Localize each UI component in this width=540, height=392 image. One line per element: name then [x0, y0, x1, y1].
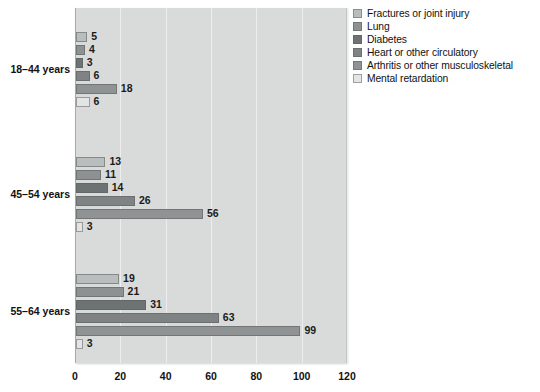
bar-row: 13: [76, 156, 346, 169]
bar[interactable]: [76, 97, 90, 107]
chart-legend: Fractures or joint injuryLungDiabetesHea…: [353, 7, 538, 85]
bar-value-label: 6: [94, 95, 100, 108]
bar[interactable]: [76, 313, 219, 323]
bar-row: 14: [76, 182, 346, 195]
bar-row: 6: [76, 96, 346, 109]
legend-label: Fractures or joint injury: [367, 8, 469, 19]
legend-swatch-icon: [353, 61, 362, 70]
x-tick-label-80: 80: [250, 370, 262, 382]
bar[interactable]: [76, 58, 83, 68]
gridline-120: [347, 8, 348, 363]
bar[interactable]: [76, 339, 83, 349]
bar-row: 21: [76, 286, 346, 299]
legend-item-2[interactable]: Lung: [353, 20, 538, 32]
bar-row: 3: [76, 338, 346, 351]
bar-value-label: 14: [112, 181, 124, 194]
bar-value-label: 99: [304, 324, 316, 337]
bar-group-1: 5436186: [76, 31, 346, 109]
bar-value-label: 21: [128, 285, 140, 298]
bar[interactable]: [76, 326, 300, 336]
bar[interactable]: [76, 196, 135, 206]
bar-group-3: 19213163993: [76, 273, 346, 351]
bar-value-label: 4: [89, 43, 95, 56]
legend-item-5[interactable]: Arthritis or other musculoskeletal: [353, 59, 538, 71]
bar-value-label: 3: [87, 56, 93, 69]
legend-label: Diabetes: [367, 34, 407, 45]
legend-label: Heart or other circulatory: [367, 47, 478, 58]
bar-value-label: 18: [121, 82, 133, 95]
bar-value-label: 6: [94, 69, 100, 82]
bar[interactable]: [76, 84, 117, 94]
x-tick-label-20: 20: [114, 370, 126, 382]
y-category-label-2: 45–54 years: [0, 188, 70, 200]
legend-item-3[interactable]: Diabetes: [353, 33, 538, 45]
bar-value-label: 3: [87, 337, 93, 350]
bar[interactable]: [76, 287, 124, 297]
legend-item-6[interactable]: Mental retardation: [353, 72, 538, 84]
x-tick-label-60: 60: [205, 370, 217, 382]
bar-value-label: 63: [223, 311, 235, 324]
bar-row: 99: [76, 325, 346, 338]
x-tick-label-40: 40: [160, 370, 172, 382]
legend-label: Lung: [367, 21, 390, 32]
bar-group-2: 13111426563: [76, 156, 346, 234]
bar-row: 19: [76, 273, 346, 286]
bar-row: 5: [76, 31, 346, 44]
legend-swatch-icon: [353, 22, 362, 31]
plot-area: 54361861311142656319213163993: [75, 8, 347, 363]
legend-swatch-icon: [353, 74, 362, 83]
bar[interactable]: [76, 32, 87, 42]
bar[interactable]: [76, 170, 101, 180]
legend-label: Arthritis or other musculoskeletal: [367, 60, 513, 71]
x-tick-label-100: 100: [293, 370, 311, 382]
x-axis: 020406080100120: [75, 364, 347, 388]
legend-swatch-icon: [353, 35, 362, 44]
legend-label: Mental retardation: [367, 73, 448, 84]
bar-value-label: 19: [123, 272, 135, 285]
bar-row: 3: [76, 57, 346, 70]
bar-row: 18: [76, 83, 346, 96]
legend-item-1[interactable]: Fractures or joint injury: [353, 7, 538, 19]
bar-chart: 54361861311142656319213163993 18–44 year…: [0, 0, 540, 392]
bar[interactable]: [76, 300, 146, 310]
bar-value-label: 11: [105, 168, 116, 181]
bar-value-label: 5: [91, 30, 97, 43]
bar[interactable]: [76, 274, 119, 284]
y-category-label-3: 55–64 years: [0, 305, 70, 317]
legend-swatch-icon: [353, 48, 362, 57]
y-category-label-1: 18–44 years: [0, 63, 70, 75]
bar-value-label: 3: [87, 220, 93, 233]
x-tick-label-0: 0: [72, 370, 78, 382]
bar-row: 4: [76, 44, 346, 57]
legend-item-4[interactable]: Heart or other circulatory: [353, 46, 538, 58]
legend-swatch-icon: [353, 9, 362, 18]
bar[interactable]: [76, 157, 105, 167]
bar[interactable]: [76, 222, 83, 232]
bar-row: 31: [76, 299, 346, 312]
bar[interactable]: [76, 183, 108, 193]
bar[interactable]: [76, 45, 85, 55]
bar-value-label: 26: [139, 194, 151, 207]
bar-row: 6: [76, 70, 346, 83]
bar-value-label: 31: [150, 298, 162, 311]
bar[interactable]: [76, 71, 90, 81]
x-tick-label-120: 120: [338, 370, 356, 382]
bar-value-label: 56: [207, 207, 219, 220]
bar-value-label: 13: [109, 155, 121, 168]
bar[interactable]: [76, 209, 203, 219]
bar-row: 3: [76, 221, 346, 234]
bar-row: 56: [76, 208, 346, 221]
